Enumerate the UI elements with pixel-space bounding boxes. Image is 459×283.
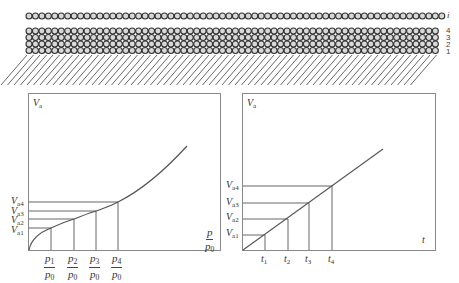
isotherm-curve <box>29 146 187 250</box>
right-x-tick-t4: t4 <box>328 254 334 266</box>
right-y-tick-va3: Va3 <box>226 197 239 209</box>
left-chart-frame <box>29 94 221 251</box>
figure: i 4 3 2 1 Va Va4 Va3 Va2 Va1 p1 p0 p2 p0… <box>0 0 459 283</box>
right-chart-frame <box>243 94 436 251</box>
left-y-axis-label: Va <box>33 98 42 110</box>
left-x-axis-label: p p0 <box>205 227 214 254</box>
right-x-tick-t3: t3 <box>305 254 311 266</box>
right-y-axis-label: Va <box>247 98 256 110</box>
right-x-axis-label: t <box>422 235 425 245</box>
layer-label-i: i <box>447 11 450 20</box>
left-guide-lines <box>29 202 118 250</box>
left-x-tick-p1: p1 p0 <box>44 253 55 281</box>
right-chart <box>243 94 436 251</box>
right-y-tick-va1: Va1 <box>226 228 239 240</box>
adsorbed-layer-i <box>26 13 445 19</box>
left-x-tick-p3: p3 p0 <box>89 253 100 281</box>
right-x-tick-t1: t1 <box>261 254 267 266</box>
left-x-tick-p4: p4 p0 <box>111 253 122 281</box>
surface-hatching <box>1 55 437 85</box>
right-y-tick-va4: Va4 <box>226 180 239 192</box>
layer-label-1: 1 <box>446 48 450 56</box>
right-x-tick-t2: t2 <box>284 254 290 266</box>
adsorbed-layers-stack <box>26 28 438 54</box>
left-y-tick-va1: Va1 <box>11 225 24 237</box>
left-chart <box>29 94 221 251</box>
left-x-tick-p2: p2 p0 <box>67 253 78 281</box>
right-y-tick-va2: Va2 <box>226 212 239 224</box>
figure-graphics <box>0 0 459 283</box>
